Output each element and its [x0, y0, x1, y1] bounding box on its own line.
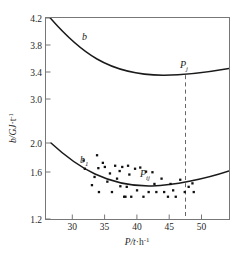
optimum-label-sub: j [185, 65, 188, 72]
scatter-point [93, 176, 95, 178]
scatter-point [153, 183, 155, 185]
scatter-point [106, 181, 108, 183]
optimum-label-main: P [179, 59, 186, 70]
scatter-point [114, 165, 116, 167]
chart-figure: 4.2 3.8 3.4 3.0 2.0 1.6 1.2 b/GJ·t-1 30 … [0, 0, 248, 256]
y-axis-tick-labels: 4.2 3.8 3.4 3.0 2.0 1.6 1.2 [30, 14, 42, 225]
scatter-point [127, 165, 129, 167]
scatter-point [179, 179, 181, 181]
scatter-point [111, 191, 113, 193]
scatter-point [142, 196, 144, 198]
scatter-point [169, 183, 171, 185]
y-tick-label: 3.8 [30, 41, 42, 51]
scatter-point [151, 171, 153, 173]
y-tick-label: 4.2 [30, 14, 42, 24]
scatter-point [84, 168, 86, 170]
y-axis-title: b/GJ·t-1 [7, 113, 19, 143]
scatter-point [91, 184, 93, 186]
scatter-point [128, 173, 130, 175]
y-tick-label: 2.0 [30, 139, 42, 149]
scatter-point [148, 191, 150, 193]
scatter-point [175, 196, 177, 198]
curve-b1-label-sub: 1 [85, 160, 88, 167]
x-tick-label: 30 [68, 222, 78, 232]
scatter-label-main: P [139, 168, 146, 179]
chart-canvas: 4.2 3.8 3.4 3.0 2.0 1.6 1.2 b/GJ·t-1 30 … [0, 0, 248, 256]
scatter-point [167, 196, 169, 198]
y-axis-title-exponent: -1 [7, 113, 14, 119]
scatter-point [124, 196, 126, 198]
scatter-point [155, 191, 157, 193]
scatter-point [184, 191, 186, 193]
scatter-point [134, 168, 136, 170]
scatter-point [163, 191, 165, 193]
scatter-point [98, 191, 100, 193]
curve-b-label: b [82, 31, 87, 42]
x-tick-label: 50 [197, 222, 207, 232]
scatter-point [119, 185, 121, 187]
scatter-point [172, 189, 174, 191]
scatter-point [136, 189, 138, 191]
x-tick-label: 35 [100, 222, 110, 232]
y-axis-title-main: b/GJ [8, 124, 18, 143]
scatter-label-sub: ij [146, 174, 150, 181]
scatter-point [116, 178, 118, 180]
scatter-point [126, 186, 128, 188]
scatter-point [96, 154, 98, 156]
y-tick-label: 1.2 [30, 215, 42, 225]
scatter-point [102, 162, 104, 164]
scatter-point [97, 167, 99, 169]
x-axis-title-main: P/t [124, 237, 136, 247]
svg-text:b/GJ·t-1: b/GJ·t-1 [7, 113, 19, 143]
x-tick-label: 45 [164, 222, 174, 232]
x-axis-tick-labels: 30 35 40 45 50 [68, 222, 207, 232]
x-axis-title-exponent: -1 [144, 236, 150, 243]
scatter-point [119, 170, 121, 172]
scatter-point [188, 186, 190, 188]
y-tick-label: 1.6 [30, 168, 42, 178]
x-axis-title: P/t·h-1 [124, 236, 150, 248]
y-tick-label: 3.0 [30, 95, 42, 105]
scatter-point [104, 166, 106, 168]
scatter-point [109, 172, 111, 174]
scatter-point [191, 182, 193, 184]
scatter-point [193, 191, 195, 193]
scatter-point [130, 196, 132, 198]
scatter-point [160, 178, 162, 180]
y-tick-label: 3.4 [30, 68, 42, 78]
scatter-point [121, 166, 123, 168]
x-tick-label: 40 [132, 222, 142, 232]
